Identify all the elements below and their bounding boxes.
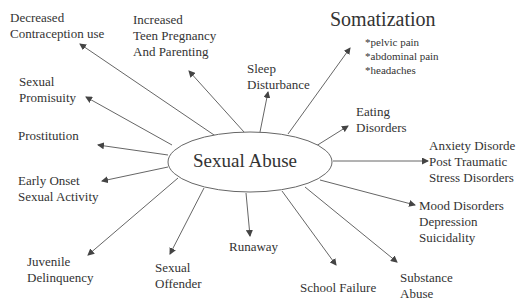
node-text: Substance	[400, 270, 453, 286]
node-mood-disorders: Mood Disorders Depression Suicidality	[419, 198, 504, 246]
node-sexual-promiscuity: Sexual Promisuity	[19, 74, 76, 106]
node-prostitution: Prostitution	[18, 128, 79, 144]
node-text: Disturbance	[247, 77, 310, 93]
arrow-school-failure	[282, 191, 336, 265]
node-text: Depression	[419, 214, 504, 230]
somatization-item: *abdominal pain	[365, 49, 439, 63]
node-early-onset: Early Onset Sexual Activity	[18, 173, 99, 205]
node-text: Sexual	[19, 74, 76, 90]
node-text: Runaway	[229, 239, 278, 255]
node-text: Promisuity	[19, 90, 76, 106]
node-text: Decreased	[10, 10, 104, 26]
node-text: Sexual	[155, 260, 202, 276]
node-anxiety-ptsd: Anxiety Disorde Post Traumatic Stress Di…	[429, 138, 515, 186]
somatization-item: *pelvic pain	[365, 35, 439, 49]
node-text: Abuse	[400, 286, 453, 302]
arrow-sexual-promiscuity	[86, 97, 172, 145]
node-text: Anxiety Disorde	[429, 138, 515, 154]
node-text: Juvenile	[27, 254, 93, 270]
node-school-failure: School Failure	[300, 280, 376, 296]
node-sleep-disturbance: Sleep Disturbance	[247, 61, 310, 93]
node-runaway: Runaway	[229, 239, 278, 255]
node-text: Mood Disorders	[419, 198, 504, 214]
node-somatization-title: Somatization	[330, 8, 436, 31]
node-text: Sexual Activity	[18, 189, 99, 205]
node-text: Suicidality	[419, 230, 504, 246]
arrow-runaway	[246, 193, 250, 236]
node-sexual-offender: Sexual Offender	[155, 260, 202, 292]
node-text: Teen Pregnancy	[133, 28, 216, 44]
node-decreased-contraception: Decreased Contraception use	[10, 10, 104, 42]
node-text: Disorders	[356, 120, 407, 136]
arrow-early-onset	[102, 167, 168, 181]
node-text: Stress Disorders	[429, 170, 515, 186]
node-text: Eating	[356, 104, 407, 120]
node-eating-disorders: Eating Disorders	[356, 104, 407, 136]
node-text: Delinquency	[27, 270, 93, 286]
node-somatization-items: *pelvic pain *abdominal pain *headaches	[365, 35, 439, 77]
node-juvenile-delinquency: Juvenile Delinquency	[27, 254, 93, 286]
node-teen-pregnancy: Increased Teen Pregnancy And Parenting	[133, 12, 216, 60]
center-label: Sexual Abuse	[193, 150, 297, 172]
arrow-sexual-offender	[170, 188, 204, 254]
arrow-eating-disorders	[316, 126, 348, 146]
arrow-substance-abuse	[305, 187, 397, 262]
node-text: And Parenting	[133, 44, 216, 60]
arrow-juvenile-delinquency	[88, 178, 178, 255]
node-text: Increased	[133, 12, 216, 28]
somatization-item: *headaches	[365, 63, 439, 77]
node-substance-abuse: Substance Abuse	[400, 270, 453, 302]
node-text: Offender	[155, 276, 202, 292]
node-text: School Failure	[300, 280, 376, 296]
arrow-sleep-disturbance	[260, 92, 268, 132]
arrow-teen-pregnancy	[189, 71, 244, 132]
node-text: Sleep	[247, 61, 310, 77]
node-text: Post Traumatic	[429, 154, 515, 170]
node-text: Prostitution	[18, 128, 79, 144]
node-text: Early Onset	[18, 173, 99, 189]
arrow-mood-disorders	[320, 180, 415, 205]
node-text: Contraception use	[10, 26, 104, 42]
arrow-prostitution	[98, 145, 168, 155]
